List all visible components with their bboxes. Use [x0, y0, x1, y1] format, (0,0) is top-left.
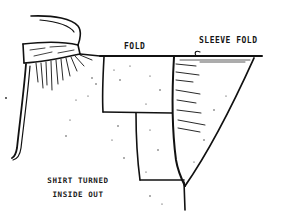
front-seam	[103, 57, 104, 112]
collar-hatching	[30, 46, 74, 56]
sleeve-diagonal	[185, 58, 254, 186]
collar	[23, 16, 80, 63]
side-seam	[136, 113, 140, 180]
fold-shading	[180, 60, 250, 62]
sleeve	[173, 51, 254, 186]
sleeve-seam	[173, 57, 185, 186]
collar-band-left	[23, 44, 24, 63]
collar-inner-line	[40, 20, 74, 32]
caption-line-2: INSIDE OUT	[30, 191, 126, 199]
shoulder-line	[80, 54, 100, 56]
sleeve-hatching	[176, 64, 205, 132]
illustration-canvas: FOLD SLEEVE FOLD SHIRT TURNED INSIDE OUT	[0, 0, 284, 220]
caption: SHIRT TURNED INSIDE OUT	[30, 177, 126, 198]
placket-left-edge	[12, 64, 26, 158]
caption-line-1: SHIRT TURNED	[30, 177, 126, 185]
sleeve-fold-label: SLEEVE FOLD	[199, 37, 257, 45]
stray-mark	[5, 97, 7, 99]
collar-band-right	[78, 45, 80, 54]
fold-label: FOLD	[124, 43, 145, 51]
collar-band-top	[23, 42, 78, 45]
yoke-line	[103, 112, 172, 113]
